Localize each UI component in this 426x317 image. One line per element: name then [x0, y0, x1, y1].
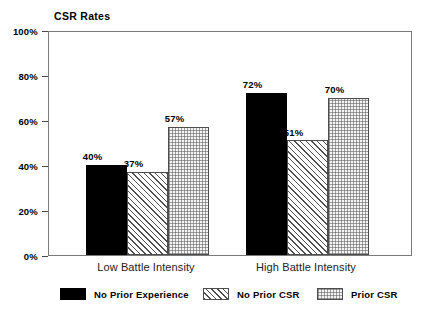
bar-value-low-prior-csr: 57% [147, 113, 202, 124]
legend-item-no-prior-csr: No Prior CSR [203, 286, 300, 302]
legend-swatch-diagonal-hatch-icon [203, 288, 229, 300]
bar-value-high-no-prior-experience: 72% [225, 79, 280, 90]
legend-item-no-prior-experience: No Prior Experience [60, 286, 189, 302]
chart-title: CSR Rates [54, 10, 110, 22]
y-axis-label-0: 0% [2, 251, 38, 262]
bar-low-no-prior-csr [127, 172, 168, 255]
legend-label-prior-csr: Prior CSR [351, 289, 398, 300]
y-axis-label-80: 80% [2, 71, 38, 82]
y-axis-label-60: 60% [2, 116, 38, 127]
plot-area [48, 31, 412, 256]
x-axis-group-label-low: Low Battle Intensity [66, 261, 226, 273]
y-axis-label-20: 20% [2, 206, 38, 217]
bar-value-low-no-prior-csr: 37% [106, 158, 161, 169]
legend-swatch-solid-black-icon [60, 288, 86, 300]
csr-rates-bar-chart: CSR Rates 100% 80% 60% 40% 20% 0% 40% 37… [0, 0, 426, 317]
x-axis-group-label-high: High Battle Intensity [226, 261, 386, 273]
bar-high-prior-csr [328, 98, 369, 256]
y-axis-label-40: 40% [2, 161, 38, 172]
legend-label-no-prior-csr: No Prior CSR [237, 289, 300, 300]
bar-high-no-prior-csr [287, 140, 328, 255]
legend-item-prior-csr: Prior CSR [317, 286, 398, 302]
bar-low-no-prior-experience [86, 165, 127, 255]
bar-low-prior-csr [168, 127, 209, 255]
legend-swatch-fine-stipple-icon [317, 288, 343, 300]
bar-high-no-prior-experience [246, 93, 287, 255]
bar-value-high-no-prior-csr: 51% [266, 127, 321, 138]
y-axis-tick-0 [42, 256, 48, 257]
y-axis-label-100: 100% [2, 26, 38, 37]
chart-legend: No Prior Experience No Prior CSR Prior C… [0, 286, 426, 308]
bar-value-high-prior-csr: 70% [307, 84, 362, 95]
legend-label-no-prior-experience: No Prior Experience [94, 289, 189, 300]
